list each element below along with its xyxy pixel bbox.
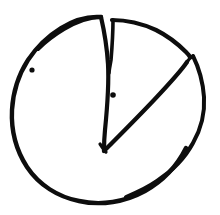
pie-wedge-notch-left-edge	[101, 17, 108, 151]
exploded-slice-top-edge	[112, 20, 190, 57]
dot-center-marker	[110, 92, 116, 98]
pie-wedge-notch-right-edge	[109, 20, 113, 73]
pie-chart-svg	[0, 0, 220, 215]
exploded-slice-radial-edge	[104, 62, 187, 151]
pie-outer-circle-arc	[12, 17, 186, 203]
dot-left-marker	[29, 67, 34, 72]
exploded-slice-outer-arc	[126, 56, 204, 197]
pie-chart-sketch-canvas	[0, 0, 220, 215]
